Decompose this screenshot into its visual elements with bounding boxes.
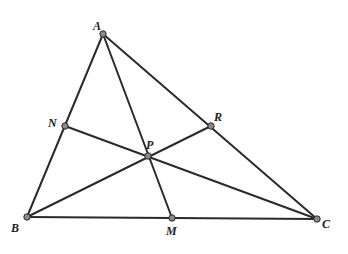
label-c: C [322, 217, 331, 231]
point-p [145, 153, 151, 159]
segment-am [103, 34, 172, 218]
point-m [169, 215, 175, 221]
label-r: R [213, 110, 222, 124]
segments-group [27, 34, 317, 219]
label-a: A [92, 19, 101, 33]
diagram-svg: ABCNPRM [0, 0, 348, 254]
segment-br [27, 126, 211, 217]
segment-cn [65, 126, 317, 219]
labels-group: ABCNPRM [10, 19, 331, 238]
label-m: M [165, 224, 177, 238]
point-n [62, 123, 68, 129]
label-p: P [146, 138, 154, 152]
label-n: N [47, 116, 58, 130]
points-group [24, 31, 320, 222]
point-c [314, 216, 320, 222]
label-b: B [10, 221, 19, 235]
point-b [24, 214, 30, 220]
triangle-diagram: ABCNPRM [0, 0, 348, 254]
